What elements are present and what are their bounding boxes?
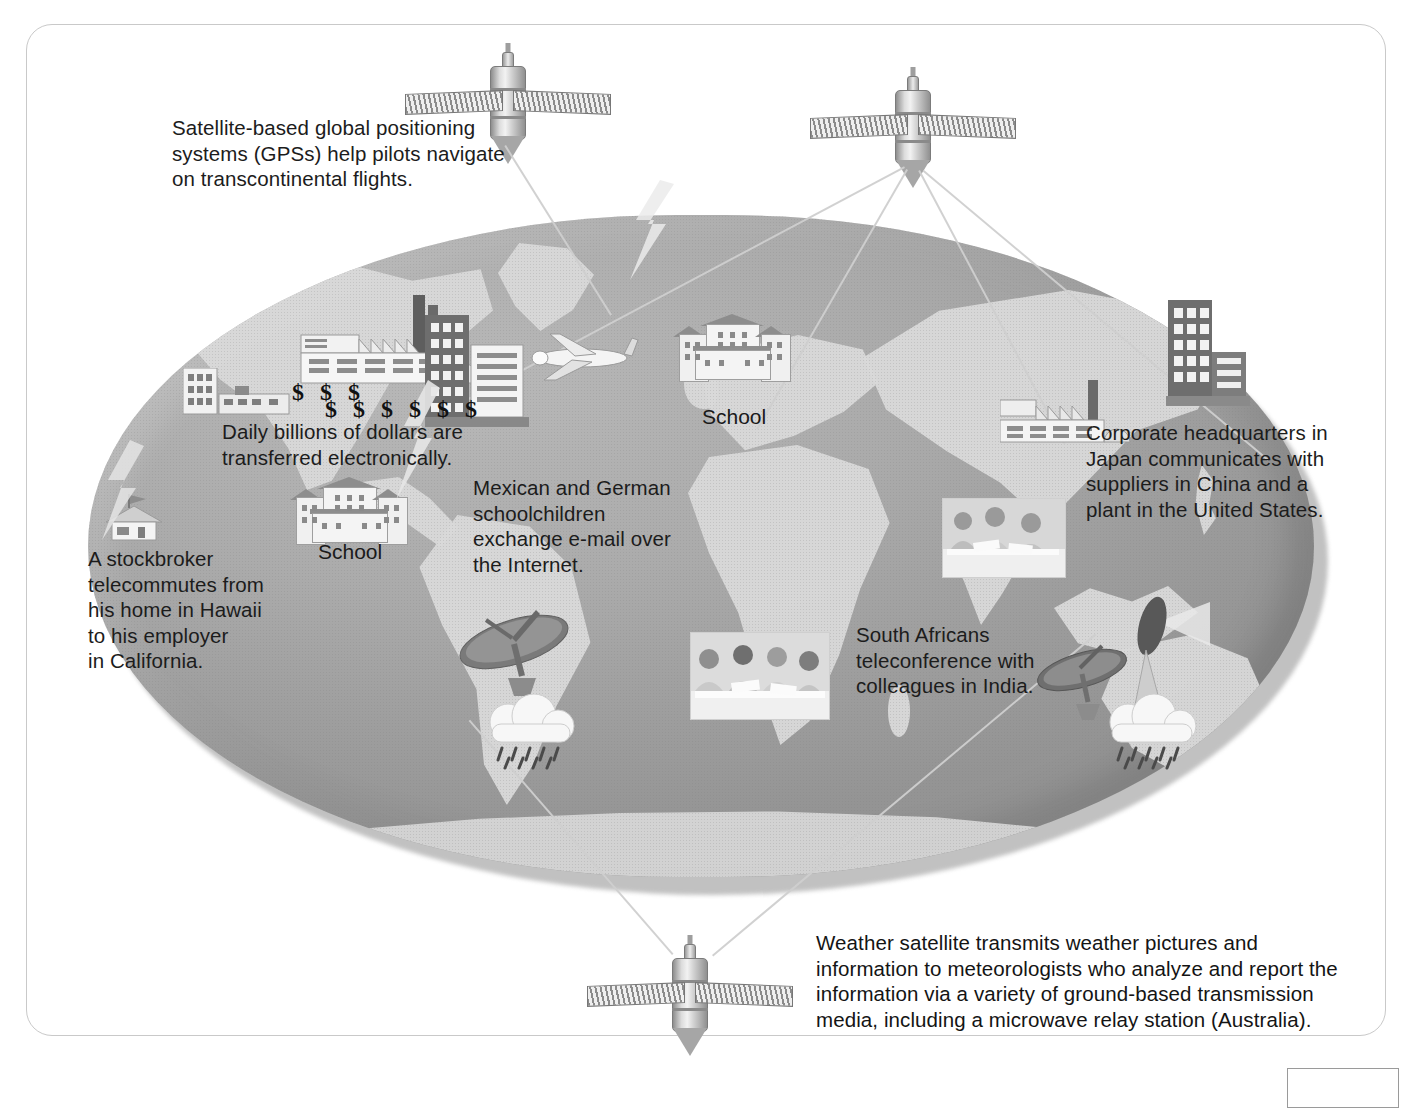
- caption-gps: Satellite-based global positioning syste…: [172, 115, 512, 192]
- caption-teleconference-line-3: colleagues in India.: [856, 673, 1096, 699]
- caption-email-line-1: Mexican and German: [473, 475, 723, 501]
- signal-bolt-hawaii: [96, 440, 156, 540]
- solar-panel-left: [587, 982, 685, 1007]
- caption-email: Mexican and German schoolchildren exchan…: [473, 475, 723, 577]
- signal-bolt-atlantic: [620, 180, 690, 280]
- rain-cloud-icon-south-america: [478, 694, 584, 772]
- solar-panel-left: [405, 90, 503, 115]
- caption-weather-line-2: information to meteorologists who analyz…: [816, 956, 1396, 982]
- caption-email-line-2: schoolchildren: [473, 501, 723, 527]
- school-label-mexico: School: [318, 540, 382, 564]
- caption-teleconference: South Africans teleconference with colle…: [856, 622, 1096, 699]
- satellite-band: [895, 140, 931, 143]
- caption-corporate-line-2: Japan communicates with: [1086, 446, 1386, 472]
- teleconference-photo-south-africa: [690, 632, 830, 720]
- caption-email-line-4: the Internet.: [473, 552, 723, 578]
- office-block-icon: [183, 368, 293, 420]
- caption-stockbroker-line-1: A stockbroker: [88, 546, 308, 572]
- solar-panel-left: [810, 114, 908, 139]
- satellite-thruster: [673, 1028, 707, 1056]
- school-building-icon-europe: [673, 320, 791, 380]
- rain-cloud-icon-australia: [1098, 694, 1206, 774]
- caption-teleconference-line-2: teleconference with: [856, 648, 1096, 674]
- school-label-europe: School: [702, 405, 766, 429]
- caption-money-transfer: Daily billions of dollars are transferre…: [222, 419, 522, 470]
- caption-stockbroker: A stockbroker telecommutes from his home…: [88, 546, 308, 674]
- satellite-band: [672, 1008, 708, 1011]
- caption-stockbroker-line-5: in California.: [88, 648, 308, 674]
- caption-corporate-line-4: plant in the United States.: [1086, 497, 1386, 523]
- solar-panel-right: [695, 982, 793, 1007]
- solar-panel-right: [513, 90, 611, 115]
- caption-stockbroker-line-4: to his employer: [88, 623, 308, 649]
- caption-weather: Weather satellite transmits weather pict…: [816, 930, 1396, 1032]
- caption-gps-line-1: Satellite-based global positioning: [172, 115, 512, 141]
- caption-stockbroker-line-3: his home in Hawaii: [88, 597, 308, 623]
- caption-corporate: Corporate headquarters in Japan communic…: [1086, 420, 1386, 522]
- caption-email-line-3: exchange e-mail over: [473, 526, 723, 552]
- landmass-new-zealand: [1256, 735, 1296, 805]
- caption-teleconference-line-1: South Africans: [856, 622, 1096, 648]
- corporate-headquarters-icon: [1140, 300, 1250, 410]
- teleconference-photo-india: [942, 498, 1066, 578]
- caption-weather-line-3: information via a variety of ground-base…: [816, 981, 1396, 1007]
- solar-panel-right: [918, 114, 1016, 139]
- caption-weather-line-1: Weather satellite transmits weather pict…: [816, 930, 1396, 956]
- caption-corporate-line-3: suppliers in China and a: [1086, 471, 1386, 497]
- caption-gps-line-3: on transcontinental flights.: [172, 166, 512, 192]
- airplane-icon: [520, 330, 640, 390]
- caption-corporate-line-1: Corporate headquarters in: [1086, 420, 1386, 446]
- caption-weather-line-4: media, including a microwave relay stati…: [816, 1007, 1396, 1033]
- caption-money-line-2: transferred electronically.: [222, 445, 522, 471]
- satellite-weather: [673, 940, 707, 1058]
- caption-money-line-1: Daily billions of dollars are: [222, 419, 522, 445]
- corner-marker-box: [1287, 1068, 1399, 1108]
- caption-gps-line-2: systems (GPSs) help pilots navigate: [172, 141, 512, 167]
- landmass-antarctica: [268, 807, 1148, 877]
- caption-stockbroker-line-2: telecommutes from: [88, 572, 308, 598]
